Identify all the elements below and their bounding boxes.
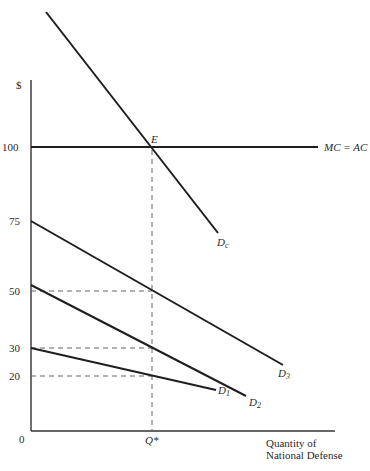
national-defense-demand-chart: $ 100 75 50 30 20 0 Q* Quantity of Natio… (0, 0, 370, 471)
qstar-label: Q* (145, 434, 159, 446)
d3-label: D3 (277, 367, 290, 381)
demand-curve-dc (46, 12, 218, 233)
y-tick-20: 20 (9, 370, 21, 382)
demand-curve-d3 (31, 221, 283, 365)
equilibrium-point-label: E (150, 133, 158, 145)
y-axis-unit-label: $ (16, 79, 22, 91)
y-tick-50: 50 (9, 285, 21, 297)
demand-curve-d1 (31, 348, 216, 390)
x-axis-label-line1: Quantity of (266, 437, 317, 449)
mc-ac-label: MC = AC (323, 141, 368, 153)
x-axis-label-line2: National Defense (266, 449, 343, 461)
dc-label: Dc (216, 236, 229, 250)
y-tick-30: 30 (9, 342, 21, 354)
d2-label: D2 (248, 396, 261, 410)
origin-label: 0 (19, 433, 25, 445)
y-tick-75: 75 (9, 215, 21, 227)
y-tick-100: 100 (2, 141, 19, 153)
demand-curve-d2 (31, 285, 246, 396)
